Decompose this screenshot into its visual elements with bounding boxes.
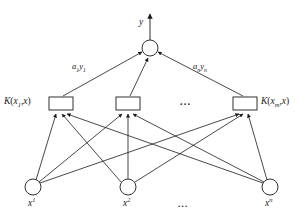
kernel-box-1[interactable] [49,97,73,110]
input-layer-ellipsis: ... [178,199,188,209]
hidden-layer-boxes [49,97,257,110]
edges-hidden-to-output [63,52,243,96]
edge-k3-to-output [158,52,243,96]
input-label-x2: x2 [123,199,130,209]
input-xn-sup: n [269,196,272,203]
output-node-group [142,14,158,56]
edge-x1-to-k3 [40,114,239,183]
edge-xn-to-k3 [248,114,267,180]
input-node-x1[interactable] [25,179,41,195]
input-label-xn: xn [265,199,272,209]
hidden-layer-ellipsis: ... [180,96,191,107]
summation-node[interactable] [142,40,158,56]
edges-input-to-hidden [36,114,267,183]
kernel-box-2[interactable] [116,97,140,110]
weight-label-n: anyn [193,62,207,71]
kernel-network-diagram: y a1y1 anyn K(x1,x) K(xm,x) ... x1 x2 xn… [0,0,299,216]
edge-x2-to-k3 [135,114,243,182]
edge-xn-to-k2 [133,114,264,182]
weight-1-variable-sub: 1 [83,67,86,73]
edge-k1-to-output [63,52,142,96]
input-node-xn[interactable] [262,179,278,195]
edge-x2-to-k1 [62,114,121,182]
weight-n-variable-sub: n [204,67,207,73]
kernel-label-right: K(xm,x) [261,97,289,107]
kernel-right-paren-close: ) [286,96,289,106]
edge-xn-to-k1 [67,114,263,183]
edge-x1-to-k2 [39,114,122,182]
output-label: y [139,18,143,28]
edge-k2-to-output [130,58,148,96]
kernel-left-paren-close: ) [28,96,31,106]
kernel-box-3[interactable] [233,97,257,110]
input-label-x1: x1 [28,199,35,209]
input-node-x2[interactable] [120,179,136,195]
input-x2-sup: 2 [127,196,130,203]
kernel-label-left: K(x1,x) [4,97,31,107]
input-x1-sup: 1 [32,196,35,203]
input-layer-nodes [25,179,278,195]
weight-label-1: a1y1 [72,62,86,71]
network-graphics [0,0,299,216]
